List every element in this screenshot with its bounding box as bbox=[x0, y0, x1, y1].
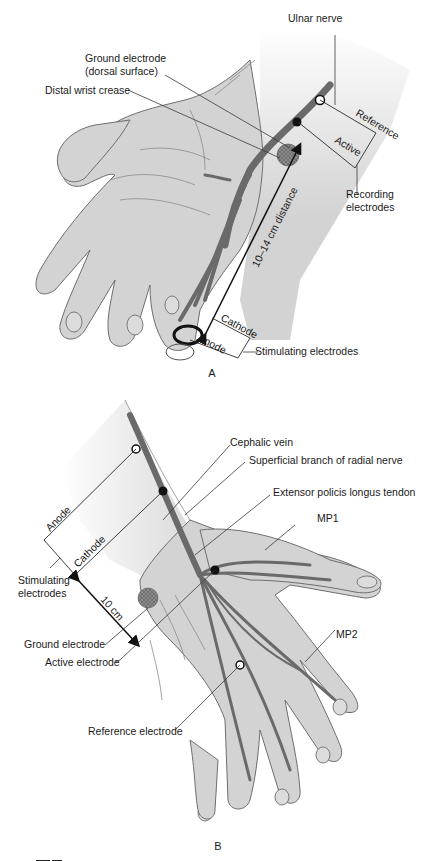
panel-label-a: A bbox=[208, 367, 216, 379]
panel-label-b: B bbox=[214, 840, 221, 852]
label-stimulating-b1: Stimulating bbox=[18, 574, 70, 586]
nail-b2 bbox=[316, 747, 330, 763]
caption-glyph-fragments bbox=[0, 857, 424, 861]
active-electrode-a bbox=[293, 118, 302, 127]
label-reference-electrode-b: Reference electrode bbox=[88, 725, 183, 737]
label-stimulating-b2: electrodes bbox=[18, 587, 66, 599]
nail-a1 bbox=[66, 312, 82, 332]
label-cathode-b: Cathode bbox=[71, 533, 108, 570]
label-recording-2: electrodes bbox=[346, 201, 394, 213]
distance-arrow-b bbox=[78, 580, 138, 645]
label-ground-electrode-a2: (dorsal surface) bbox=[85, 65, 158, 77]
label-ground-electrode-a1: Ground electrode bbox=[85, 52, 166, 64]
nail-thumb-b bbox=[357, 576, 377, 588]
label-stimulating-a: Stimulating electrodes bbox=[255, 345, 358, 357]
forearm-a bbox=[240, 27, 410, 340]
label-mp1: MP1 bbox=[317, 512, 339, 524]
panel-a: Ulnar nerve Ground electrode (dorsal sur… bbox=[36, 12, 410, 379]
nail-a2 bbox=[127, 315, 143, 335]
label-epl-tendon: Extensor policis longus tendon bbox=[273, 486, 416, 498]
label-mp2: MP2 bbox=[336, 628, 358, 640]
label-ground-electrode-b: Ground electrode bbox=[24, 638, 105, 650]
label-ulnar-nerve: Ulnar nerve bbox=[288, 12, 342, 24]
label-superficial-branch: Superficial branch of radial nerve bbox=[249, 454, 403, 466]
label-anode-a: Anode bbox=[196, 331, 229, 356]
caption-truncated bbox=[0, 852, 424, 861]
nail-a3 bbox=[165, 296, 179, 314]
label-cephalic-vein: Cephalic vein bbox=[230, 436, 293, 448]
ground-electrode-b bbox=[138, 588, 158, 608]
nerve-conduction-figure: Ulnar nerve Ground electrode (dorsal sur… bbox=[0, 0, 424, 861]
label-recording-1: Recording bbox=[346, 188, 394, 200]
label-active-electrode-b: Active electrode bbox=[45, 656, 120, 668]
nail-b3 bbox=[275, 789, 289, 805]
label-anode-b: Anode bbox=[43, 503, 73, 533]
panel-b: Cephalic vein Superficial branch of radi… bbox=[18, 400, 416, 852]
hand-a bbox=[36, 60, 263, 350]
label-distal-wrist-crease: Distal wrist crease bbox=[45, 84, 130, 96]
